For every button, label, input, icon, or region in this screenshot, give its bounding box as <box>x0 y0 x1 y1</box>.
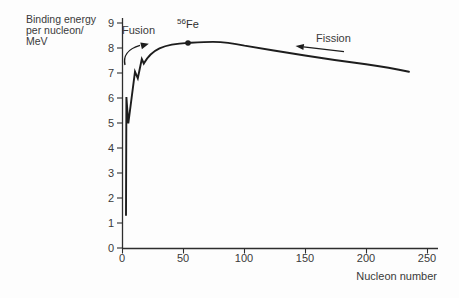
y-tick-label-2: 2 <box>90 192 114 204</box>
fe56-symbol: Fe <box>186 18 199 30</box>
x-tick-label-250: 250 <box>407 252 447 264</box>
fe56-label: 56Fe <box>177 18 199 30</box>
fission-label: Fission <box>316 32 351 44</box>
binding-energy-curve <box>126 42 409 215</box>
y-tick-label-3: 3 <box>90 167 114 179</box>
fe56-marker <box>185 40 191 46</box>
y-tick-label-4: 4 <box>90 142 114 154</box>
fusion-label: Fusion <box>122 24 155 36</box>
y-axis-ticks <box>117 23 123 248</box>
x-axis-title: Nucleon number <box>347 270 437 282</box>
y-tick-label-8: 8 <box>90 42 114 54</box>
y-tick-label-1: 1 <box>90 217 114 229</box>
axes <box>122 18 438 249</box>
y-tick-label-9: 9 <box>90 17 114 29</box>
binding-energy-chart: Binding energy per nucleon/ MeV 9 8 7 6 … <box>0 0 459 298</box>
x-tick-label-150: 150 <box>285 252 325 264</box>
y-tick-label-6: 6 <box>90 92 114 104</box>
x-tick-label-0: 0 <box>102 252 142 264</box>
y-axis-title-line3: MeV <box>26 36 96 47</box>
x-tick-label-200: 200 <box>346 252 386 264</box>
x-tick-label-50: 50 <box>163 252 203 264</box>
y-tick-label-7: 7 <box>90 67 114 79</box>
fission-arrow <box>296 44 345 52</box>
fe56-mass-number: 56 <box>177 17 186 26</box>
y-axis-title: Binding energy per nucleon/ MeV <box>26 14 96 47</box>
y-tick-label-5: 5 <box>90 117 114 129</box>
x-tick-label-100: 100 <box>224 252 264 264</box>
